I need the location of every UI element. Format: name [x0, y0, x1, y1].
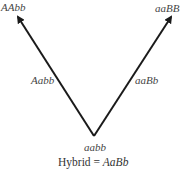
hybrid-diagram: AAbb aaBB Aabb aaBb aabb Hybrid = AaBb: [0, 0, 187, 170]
hybrid-caption: Hybrid = AaBb: [58, 156, 128, 169]
node-top-left-label: AAbb: [1, 1, 25, 13]
node-bottom-label: aabb: [84, 141, 106, 153]
caption-genotype: AaBb: [103, 156, 129, 168]
edge-right-label: aaBb: [135, 74, 158, 86]
caption-prefix: Hybrid =: [58, 156, 103, 168]
right-arrow: [94, 17, 171, 136]
edge-left-label: Aabb: [31, 74, 54, 86]
node-top-right-label: aaBB: [155, 2, 179, 14]
left-arrow: [18, 17, 94, 136]
